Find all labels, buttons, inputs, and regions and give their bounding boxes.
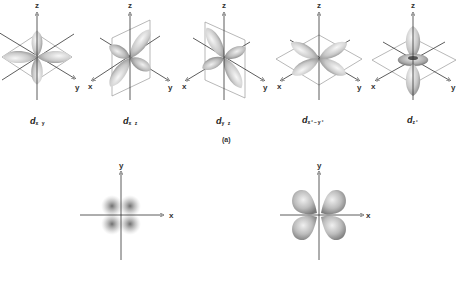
- part-a-caption: (a): [222, 136, 231, 143]
- orbital-dyz: [187, 14, 263, 100]
- axis-label-z: z: [317, 2, 321, 10]
- axis-label-y: y: [168, 84, 172, 92]
- orbital-label-dyz: dy z: [216, 117, 231, 126]
- axis-label-x: x: [366, 212, 370, 220]
- axis-label-y: y: [119, 162, 123, 170]
- axis-label-y: y: [75, 84, 79, 92]
- axis-label-z: z: [222, 2, 226, 10]
- orbital-dz2: [372, 14, 456, 100]
- axis-label-x: x: [182, 83, 186, 91]
- orbital-label-dxz: dx z: [123, 117, 138, 126]
- axis-label-z: z: [128, 2, 132, 10]
- axis-label-y: y: [451, 84, 455, 92]
- density-cross-section: [80, 173, 162, 260]
- axis-label-y: y: [357, 84, 361, 92]
- axis-label-x: x: [277, 83, 281, 91]
- orbital-label-dx2-y2: dx²−y²: [302, 116, 324, 125]
- boundary-cross-section: [280, 173, 362, 260]
- axis-label-z: z: [35, 2, 39, 10]
- axis-label-z: z: [411, 2, 415, 10]
- axis-label-y: y: [263, 84, 267, 92]
- axis-label-y: y: [317, 162, 321, 170]
- orbital-dxy: [0, 14, 74, 100]
- axis-label-x: x: [169, 212, 173, 220]
- axis-label-x: x: [371, 83, 375, 91]
- orbital-dxz: [93, 14, 168, 100]
- axis-label-x: x: [88, 83, 92, 91]
- orbital-label-dxy: dx y: [30, 117, 45, 126]
- orbital-dx2-y2: [276, 14, 362, 100]
- orbital-label-dz2: dz²: [407, 116, 419, 125]
